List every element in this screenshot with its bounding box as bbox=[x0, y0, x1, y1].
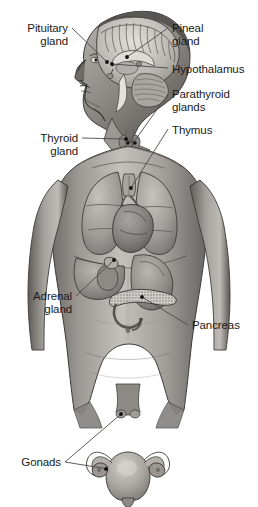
label-parathyroid-glands: Parathyroid glands bbox=[172, 88, 258, 113]
label-thyroid-gland: Thyroid gland bbox=[0, 132, 78, 157]
endocrine-system-figure: Pituitary gland Pineal gland Hypothalamu… bbox=[0, 0, 258, 507]
dot-gonads-body bbox=[119, 412, 123, 416]
dot-pituitary-gland bbox=[105, 60, 109, 64]
dot-parathyroid-b bbox=[133, 141, 136, 144]
label-pituitary-gland: Pituitary gland bbox=[0, 22, 68, 47]
label-adrenal-gland: Adrenal gland bbox=[0, 290, 72, 315]
label-thymus: Thymus bbox=[172, 124, 258, 137]
label-gonads: Gonads bbox=[0, 456, 61, 469]
dot-hypothalamus bbox=[110, 62, 114, 66]
dot-adrenal-gland bbox=[112, 258, 116, 262]
label-pineal-gland: Pineal gland bbox=[172, 22, 258, 47]
label-pancreas: Pancreas bbox=[192, 319, 258, 332]
dot-pineal-gland bbox=[125, 55, 129, 59]
anatomy-illustration bbox=[0, 0, 258, 507]
dot-thyroid-gland bbox=[124, 137, 128, 141]
dot-parathyroid-a bbox=[126, 141, 129, 144]
dot-gonads-inset bbox=[104, 467, 108, 471]
label-hypothalamus: Hypothalamus bbox=[172, 63, 258, 76]
dot-thymus bbox=[129, 186, 133, 190]
dot-pancreas bbox=[140, 295, 144, 299]
